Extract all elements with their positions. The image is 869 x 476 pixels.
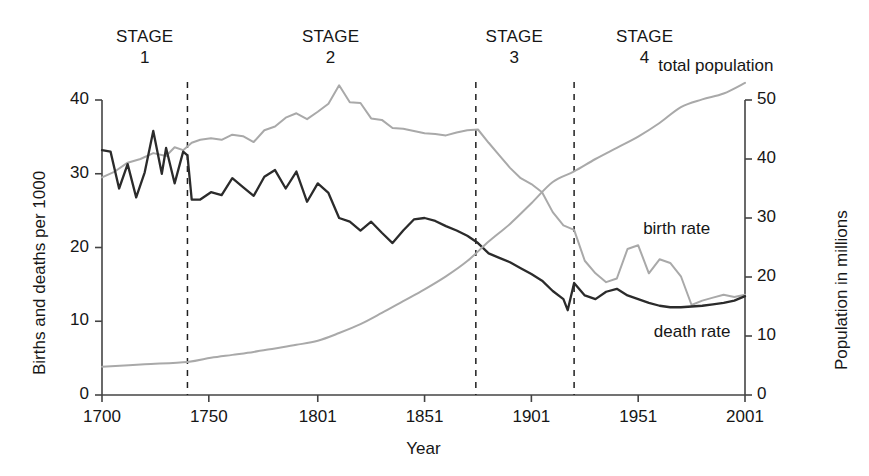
y-axis-tick-label: 0 bbox=[49, 384, 89, 404]
series-label-birth-rate: birth rate bbox=[643, 219, 710, 239]
series-label-death-rate: death rate bbox=[654, 322, 731, 342]
y-axis-tick-label: 30 bbox=[49, 163, 89, 183]
stage-header-2: STAGE2 bbox=[271, 26, 391, 68]
y-axis-title: Births and deaths per 1000 bbox=[30, 171, 50, 375]
y2-axis-tick-label: 10 bbox=[757, 325, 797, 345]
y2-axis-title: Population in millions bbox=[832, 210, 852, 370]
stage-word: STAGE bbox=[271, 26, 391, 47]
stage-header-1: STAGE1 bbox=[85, 26, 205, 68]
x-axis-tick-label: 1901 bbox=[491, 407, 571, 427]
y-axis-tick-label: 40 bbox=[49, 89, 89, 109]
stage-number: 2 bbox=[271, 47, 391, 68]
series-line-birth-rate bbox=[102, 85, 745, 305]
axes-group bbox=[95, 100, 752, 402]
y-axis-tick-label: 20 bbox=[49, 237, 89, 257]
demographic-transition-chart: STAGE1STAGE2STAGE3STAGE40102030400102030… bbox=[0, 0, 869, 476]
y2-axis-tick-label: 20 bbox=[757, 266, 797, 286]
x-axis-tick-label: 1750 bbox=[169, 407, 249, 427]
y2-axis-tick-label: 0 bbox=[757, 384, 797, 404]
y2-axis-tick-label: 30 bbox=[757, 207, 797, 227]
x-axis-tick-label: 2001 bbox=[705, 407, 785, 427]
x-axis-tick-label: 1951 bbox=[598, 407, 678, 427]
y2-axis-tick-label: 50 bbox=[757, 89, 797, 109]
series-label-total-population: total population bbox=[658, 56, 773, 76]
stage-word: STAGE bbox=[454, 26, 574, 47]
stage-number: 3 bbox=[454, 47, 574, 68]
stage-number: 1 bbox=[85, 47, 205, 68]
x-axis-tick-label: 1801 bbox=[278, 407, 358, 427]
stage-divider-group bbox=[187, 82, 574, 395]
stage-word: STAGE bbox=[85, 26, 205, 47]
x-axis-tick-label: 1851 bbox=[385, 407, 465, 427]
x-axis-title: Year bbox=[364, 439, 484, 459]
y2-axis-tick-label: 40 bbox=[757, 148, 797, 168]
stage-header-3: STAGE3 bbox=[454, 26, 574, 68]
stage-word: STAGE bbox=[585, 26, 705, 47]
y-axis-tick-label: 10 bbox=[49, 310, 89, 330]
x-axis-tick-label: 1700 bbox=[62, 407, 142, 427]
